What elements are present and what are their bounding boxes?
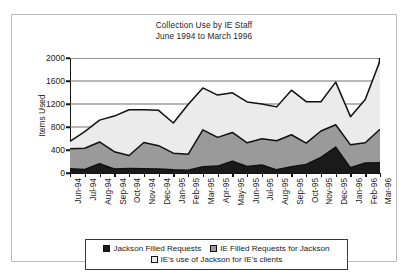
y-tick-label: 2000 xyxy=(46,53,65,63)
x-tick-label: Mar-95 xyxy=(206,178,216,204)
x-tick-mark xyxy=(218,173,219,177)
x-tick-mark xyxy=(321,173,322,177)
x-tick-label: Dec-95 xyxy=(339,178,349,205)
x-tick-label: Jan-96 xyxy=(354,178,364,203)
y-tick-label: 1600 xyxy=(46,76,65,86)
x-tick-mark xyxy=(100,173,101,177)
x-tick-mark xyxy=(350,173,351,177)
y-tick-label: 0 xyxy=(60,168,65,178)
x-tick-mark xyxy=(159,173,160,177)
legend-label: Jackson Filled Requests xyxy=(113,243,201,254)
x-tick-mark xyxy=(262,173,263,177)
chart-title-line-2: June 1994 to March 1996 xyxy=(12,31,396,42)
x-tick-label: Jan-95 xyxy=(177,178,187,203)
stacked-area-chart xyxy=(70,58,380,173)
x-tick-label: Dec-94 xyxy=(162,178,172,205)
x-tick-mark xyxy=(173,173,174,177)
chart-legend: Jackson Filled Requests IE Filled Reques… xyxy=(85,239,348,270)
x-tick-mark xyxy=(380,173,381,177)
x-tick-label: Jul-94 xyxy=(88,178,98,201)
x-tick-label: Feb-95 xyxy=(191,178,201,204)
x-tick-label: Oct-94 xyxy=(132,178,142,203)
y-tick-mark xyxy=(66,80,70,82)
y-tick-mark xyxy=(66,103,70,105)
x-tick-label: Sep-94 xyxy=(118,178,128,205)
x-tick-label: Aug-94 xyxy=(103,178,113,205)
x-tick-mark xyxy=(232,173,233,177)
legend-row-2: IE's use of Jackson for IE's clients xyxy=(86,254,347,265)
legend-item-jackson-filled-requests: Jackson Filled Requests xyxy=(103,243,201,254)
legend-label: IE Filled Requests for Jackson xyxy=(220,243,329,254)
x-tick-label: Apr-95 xyxy=(221,178,231,203)
x-tick-mark xyxy=(203,173,204,177)
x-tick-mark xyxy=(129,173,130,177)
chart-title-line-1: Collection Use by IE Staff xyxy=(12,20,396,31)
x-tick-mark xyxy=(70,173,71,177)
x-tick-mark xyxy=(144,173,145,177)
legend-swatch-icon xyxy=(103,245,110,252)
x-tick-mark xyxy=(277,173,278,177)
y-tick-label: 400 xyxy=(51,145,65,155)
x-tick-label: Mar-96 xyxy=(383,178,393,204)
x-tick-label: Aug-95 xyxy=(280,178,290,205)
x-tick-label: Oct-95 xyxy=(310,178,320,203)
x-tick-label: Sep-95 xyxy=(295,178,305,205)
x-tick-mark xyxy=(247,173,248,177)
x-tick-label: Jun-95 xyxy=(251,178,261,203)
x-tick-mark xyxy=(291,173,292,177)
x-tick-label: Jun-94 xyxy=(73,178,83,203)
y-tick-label: 800 xyxy=(51,122,65,132)
y-axis-title: Items Used xyxy=(36,0,48,58)
x-tick-mark xyxy=(85,173,86,177)
chart-title: Collection Use by IE Staff June 1994 to … xyxy=(12,20,396,41)
legend-item-ie-use-of-jackson-for-ie-clients: IE's use of Jackson for IE's clients xyxy=(151,254,283,265)
legend-row-1: Jackson Filled Requests IE Filled Reques… xyxy=(86,243,347,254)
x-tick-label: Feb-96 xyxy=(369,178,379,204)
y-tick-mark xyxy=(66,57,70,59)
x-tick-label: May-95 xyxy=(236,178,246,206)
y-tick-mark xyxy=(66,126,70,128)
y-tick-label: 1200 xyxy=(46,99,65,109)
x-tick-mark xyxy=(365,173,366,177)
x-tick-mark xyxy=(188,173,189,177)
legend-swatch-icon xyxy=(210,245,217,252)
legend-item-ie-filled-requests-for-jackson: IE Filled Requests for Jackson xyxy=(210,243,329,254)
x-tick-mark xyxy=(336,173,337,177)
legend-swatch-icon xyxy=(151,256,158,263)
x-tick-label: Nov-94 xyxy=(147,178,157,205)
x-tick-label: Jul-95 xyxy=(265,178,275,201)
x-tick-mark xyxy=(114,173,115,177)
figure-frame: Collection Use by IE Staff June 1994 to … xyxy=(11,14,397,262)
x-tick-mark xyxy=(306,173,307,177)
x-tick-label: Nov-95 xyxy=(324,178,334,205)
legend-label: IE's use of Jackson for IE's clients xyxy=(161,254,283,265)
y-tick-mark xyxy=(66,149,70,151)
plot-area-wrapper: 0400800120016002000Jun-94Jul-94Aug-94Sep… xyxy=(70,58,380,173)
